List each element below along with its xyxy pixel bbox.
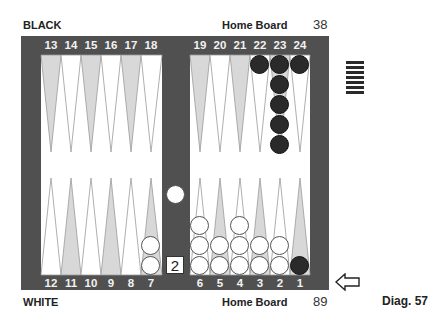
black-checker[interactable] [270,75,289,94]
point-18[interactable] [141,55,162,152]
point-label-16: 16 [101,39,121,51]
borne-off-checker [346,61,364,64]
point-label-2: 2 [270,277,290,289]
white-checker[interactable] [270,256,289,275]
white-checker[interactable] [230,216,249,235]
borne-off-checker [346,81,364,84]
white-checker[interactable] [190,216,209,235]
point-label-19: 19 [190,39,210,51]
borne-off-checker [346,71,364,74]
white-checker[interactable] [210,236,229,255]
white-checker[interactable] [250,236,269,255]
point-label-11: 11 [61,277,81,289]
point-label-4: 4 [230,277,250,289]
point-label-6: 6 [190,277,210,289]
point-label-15: 15 [81,39,101,51]
white-checker[interactable] [230,236,249,255]
point-15[interactable] [81,55,101,152]
point-16[interactable] [101,55,121,152]
point-label-14: 14 [61,39,81,51]
point-label-5: 5 [210,277,230,289]
point-12[interactable] [41,178,61,275]
black-checker[interactable] [270,95,289,114]
point-label-13: 13 [41,39,61,51]
point-label-9: 9 [101,277,121,289]
point-label-10: 10 [81,277,101,289]
point-label-1: 1 [290,277,310,289]
point-label-3: 3 [250,277,270,289]
borne-off-checker [346,86,364,89]
white-checker[interactable] [141,256,160,275]
white-checker[interactable] [141,236,160,255]
arrow-left-icon [335,273,361,291]
borne-off-checker [346,66,364,69]
point-label-12: 12 [41,277,61,289]
white-checker[interactable] [210,256,229,275]
point-13[interactable] [41,55,61,152]
white-pip-count: 89 [313,294,327,309]
point-8[interactable] [121,178,141,275]
white-checker-on-bar[interactable] [166,185,185,204]
point-9[interactable] [101,178,121,275]
point-label-24: 24 [290,39,310,51]
black-borne-off-stack [346,61,364,96]
black-checker[interactable] [290,256,309,275]
point-19[interactable] [190,55,210,152]
diagram-caption: Diag. 57 [382,294,428,308]
black-checker[interactable] [290,55,309,74]
point-21[interactable] [230,55,250,152]
point-label-17: 17 [121,39,141,51]
white-checker[interactable] [190,256,209,275]
borne-off-checker [346,91,364,94]
point-label-20: 20 [210,39,230,51]
point-label-18: 18 [141,39,161,51]
black-checker[interactable] [270,115,289,134]
point-17[interactable] [121,55,141,152]
point-14[interactable] [61,55,81,152]
black-checker[interactable] [270,135,289,154]
point-20[interactable] [210,55,230,152]
black-checker[interactable] [270,55,289,74]
bottom-player-label: WHITE [23,296,58,308]
black-checker[interactable] [250,55,269,74]
bottom-home-board-label: Home Board [222,296,287,308]
point-label-23: 23 [270,39,290,51]
white-checker[interactable] [270,236,289,255]
white-checker[interactable] [190,236,209,255]
point-label-22: 22 [250,39,270,51]
borne-off-checker [346,76,364,79]
doubling-cube[interactable]: 2 [166,256,184,274]
point-label-7: 7 [141,277,161,289]
point-10[interactable] [81,178,101,275]
point-label-21: 21 [230,39,250,51]
white-checker[interactable] [230,256,249,275]
point-label-8: 8 [121,277,141,289]
white-checker[interactable] [250,256,269,275]
point-11[interactable] [61,178,81,275]
